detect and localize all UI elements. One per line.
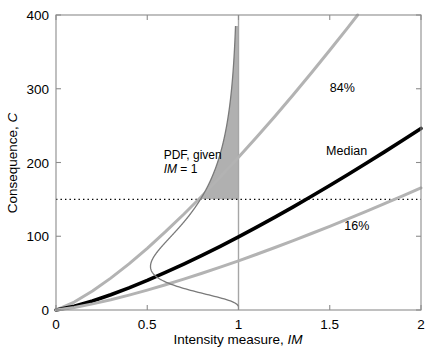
label-median: Median [326, 144, 367, 158]
x-tick-label: 1.5 [320, 317, 339, 332]
x-tick-label: 1 [235, 317, 243, 332]
x-axis-title: Intensity measure, IM [173, 332, 303, 347]
pdf-annotation-line1: PDF, given [164, 148, 222, 162]
x-tick-label: 0.5 [138, 317, 157, 332]
consequence-vs-intensity-chart: 00.511.520100200300400 Intensity measure… [0, 0, 435, 354]
x-tick-label: 2 [417, 317, 425, 332]
label-16: 16% [344, 219, 369, 233]
pdf-annotation-line2: IM = 1 [164, 162, 198, 176]
y-tick-label: 200 [26, 156, 49, 171]
x-tick-label: 0 [52, 317, 60, 332]
label-84: 84% [330, 81, 355, 95]
figure-container: 00.511.520100200300400 Intensity measure… [0, 0, 435, 354]
y-tick-label: 0 [41, 303, 49, 318]
y-tick-label: 300 [26, 82, 49, 97]
y-tick-label: 400 [26, 8, 49, 23]
y-axis-title: Consequence, C [5, 112, 20, 213]
y-tick-label: 100 [26, 229, 49, 244]
